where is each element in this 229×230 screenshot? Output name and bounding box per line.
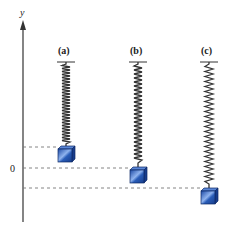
axis-label: y (19, 7, 25, 18)
spring-coil-icon (134, 62, 142, 167)
block-a (58, 146, 75, 162)
block-c (201, 188, 218, 204)
spring-label-c: (c) (201, 45, 212, 57)
spring-coil-icon (62, 62, 70, 146)
origin-label: 0 (10, 163, 15, 174)
axis-arrow-icon (20, 20, 26, 30)
reference-lines (23, 147, 201, 188)
spring-b: (b) (129, 45, 147, 183)
spring-c: (c) (200, 45, 218, 204)
y-axis: y 0 (10, 7, 26, 222)
spring-coil-icon (205, 62, 213, 188)
spring-a: (a) (57, 45, 75, 162)
spring-label-b: (b) (130, 45, 142, 57)
spring-label-a: (a) (58, 45, 70, 57)
spring-diagram: y 0 (a) (b) (c) (0, 0, 229, 230)
block-b (130, 167, 147, 183)
